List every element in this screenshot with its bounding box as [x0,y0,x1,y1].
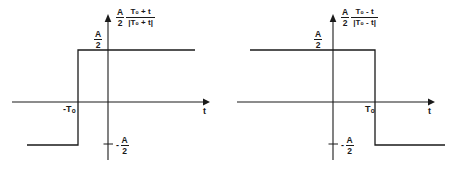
plot-svg-left [0,0,226,174]
plot-panel-left: A 2 T₀ + t |T₀ + t| A 2 - A 2 -To [0,0,226,174]
x-axis-arrow-icon [203,99,210,106]
value-neg-sign-right: - [341,141,344,150]
expression-ratio-left: T₀ + t |T₀ + t| [126,8,155,28]
y-axis-right [330,14,337,160]
value-neg-num-right: A [346,136,354,146]
value-label-negative-right: - A 2 [341,136,354,155]
expr-ratio-num-right: T₀ - t [351,8,378,18]
y-axis-arrow-icon [105,14,112,22]
value-frac-negative-left: A 2 [121,136,129,155]
expr-ratio-den-left: |T₀ + t| [126,18,155,27]
value-frac-positive-left: A 2 [94,30,102,49]
value-pos-den-right: 2 [314,40,322,49]
value-pos-num-left: A [94,30,102,40]
expr-ratio-den-right: |T₀ - t| [351,18,378,27]
figure-container: A 2 T₀ + t |T₀ + t| A 2 - A 2 -To [0,0,451,174]
expression-coefficient-right: A 2 [341,8,349,27]
x-axis-label-right: t [428,107,431,116]
x-axis-right [237,99,435,106]
waveform-right [250,50,445,145]
value-neg-den-left: 2 [121,146,129,155]
value-label-positive-left: A 2 [94,30,102,49]
expression-right: A 2 T₀ - t |T₀ - t| [341,8,378,28]
plot-panel-right: A 2 T₀ - t |T₀ - t| A 2 - A 2 To [225,0,451,174]
x-tick-sub-right: o [371,107,375,114]
value-frac-positive-right: A 2 [314,30,322,49]
x-tick-base-right: T [365,104,371,114]
x-axis-arrow-icon [428,99,435,106]
value-neg-sign-left: - [116,141,119,150]
expr-coef-den-left: 2 [116,18,124,27]
value-frac-negative-right: A 2 [346,136,354,155]
x-tick-label-left: -To [63,105,76,115]
y-axis-left [105,14,112,160]
x-tick-sub-left: o [72,107,76,114]
x-axis-label-left: t [203,107,206,116]
x-axis-left [12,99,210,106]
value-neg-num-left: A [121,136,129,146]
expression-ratio-right: T₀ - t |T₀ - t| [351,8,378,28]
expr-coef-num-right: A [341,8,349,18]
value-pos-den-left: 2 [94,40,102,49]
expr-coef-den-right: 2 [341,18,349,27]
expr-coef-num-left: A [116,8,124,18]
plot-svg-right [225,0,451,174]
value-neg-den-right: 2 [346,146,354,155]
y-axis-arrow-icon [330,14,337,22]
expr-ratio-num-left: T₀ + t [126,8,155,18]
value-label-positive-right: A 2 [314,30,322,49]
x-tick-label-right: To [365,105,375,115]
value-pos-num-right: A [314,30,322,40]
expression-left: A 2 T₀ + t |T₀ + t| [116,8,155,28]
waveform-left [27,50,195,145]
expression-coefficient-left: A 2 [116,8,124,27]
value-label-negative-left: - A 2 [116,136,129,155]
x-tick-base-left: T [66,104,72,114]
